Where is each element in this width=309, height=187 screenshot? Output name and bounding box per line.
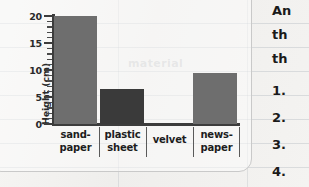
y-tick-major: [44, 96, 52, 98]
y-tick-minor: [47, 91, 52, 92]
category-label-line: velvet: [153, 133, 187, 146]
category-label-line: plastic: [104, 128, 140, 141]
y-tick-minor: [47, 32, 52, 33]
y-tick-minor: [47, 48, 52, 49]
bar: [193, 73, 237, 124]
y-tick-minor: [47, 21, 52, 22]
y-tick-label: 5: [36, 92, 42, 103]
y-tick-minor: [47, 80, 52, 81]
question-text-fragment: th: [272, 51, 287, 66]
question-text-fragment: th: [272, 27, 287, 42]
list-item-number: 4.: [272, 164, 286, 179]
y-tick-minor: [47, 26, 52, 27]
y-tick-label: 15: [29, 38, 42, 49]
y-tick-minor: [47, 59, 52, 60]
y-tick-major: [44, 123, 52, 125]
y-tick-minor: [47, 37, 52, 38]
y-tick-label: 20: [29, 11, 42, 22]
category-label-line: sheet: [107, 141, 137, 154]
list-item-number: 3.: [272, 137, 286, 152]
plot-area: 05101520: [52, 16, 238, 124]
worksheet-question-text: An th th 1. 2. 3. 4.: [272, 0, 309, 187]
y-tick-minor: [47, 102, 52, 103]
category-label-3: velvet: [146, 127, 193, 163]
y-tick-major: [44, 69, 52, 71]
y-tick-minor: [47, 53, 52, 54]
y-tick-minor: [47, 107, 52, 108]
category-label-2: plasticsheet: [99, 127, 146, 163]
list-item-number: 1.: [272, 83, 286, 98]
category-label-line: paper: [60, 141, 92, 154]
y-tick-minor: [47, 86, 52, 87]
worksheet-page: material Height (cm) 05101520 sand-paper…: [0, 0, 309, 187]
category-label-line: news-: [200, 128, 232, 141]
y-tick-minor: [47, 113, 52, 114]
y-tick-label: 10: [29, 65, 42, 76]
y-tick-minor: [47, 118, 52, 119]
bar: [54, 16, 98, 124]
y-tick-label: 0: [36, 119, 42, 130]
category-label-line: paper: [201, 141, 233, 154]
y-tick-minor: [47, 64, 52, 65]
category-divider: [239, 127, 240, 157]
y-tick-major: [44, 15, 52, 17]
y-tick-major: [44, 42, 52, 44]
y-tick-minor: [47, 75, 52, 76]
list-item-number: 2.: [272, 110, 286, 125]
category-label-line: sand-: [60, 128, 90, 141]
category-label-4: news-paper: [193, 127, 240, 163]
bar: [100, 89, 144, 124]
category-label-1: sand-paper: [52, 127, 99, 163]
question-text-fragment: An: [272, 3, 291, 18]
x-axis-category-labels: sand-paperplasticsheetvelvetnews-paper: [52, 127, 240, 163]
